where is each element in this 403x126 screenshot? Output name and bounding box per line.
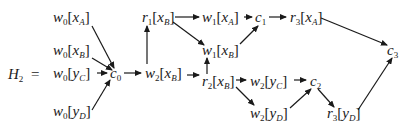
node-w2xB: w2[xB] — [145, 65, 182, 83]
edge-r3yD-to-c3 — [358, 58, 392, 110]
node-c3: c3 — [387, 42, 399, 60]
node-w0xB: w0[xB] — [53, 42, 90, 60]
node-c0: c0 — [110, 65, 122, 83]
node-r3yD: r3[yD] — [327, 105, 361, 123]
edge-r1xB-to-w1xB — [173, 22, 204, 45]
edge-w0xA-to-c0 — [92, 26, 114, 68]
node-w1xA: w1[xA] — [202, 9, 239, 27]
node-r3xA: r3[xA] — [290, 9, 323, 27]
node-r1xB: r1[xB] — [142, 9, 175, 27]
node-w2yD: w2[yD] — [250, 105, 288, 123]
edge-layer — [92, 17, 392, 110]
computation-graph-diagram: H2 = w0[xA]w0[xB]w0[yC]w0[yD]c0w2[xB]r1[… — [0, 0, 403, 126]
node-w0yD: w0[yD] — [53, 103, 91, 121]
edge-w2yD-to-c2 — [290, 89, 311, 108]
edge-r2xB-to-w2yD — [236, 87, 254, 105]
node-c1: c1 — [255, 9, 266, 27]
equals-sign: = — [31, 66, 39, 82]
edge-w0xB-to-c0 — [92, 58, 112, 70]
node-c2: c2 — [310, 73, 321, 91]
node-w2yC: w2[yC] — [250, 73, 287, 91]
edge-w1xB-to-c1 — [240, 26, 258, 44]
equation-lhs: H2 — [7, 66, 23, 84]
equation-label: H2 = — [7, 66, 39, 84]
edge-w0yD-to-c0 — [92, 80, 110, 110]
node-r2xB: r2[xB] — [202, 73, 235, 91]
node-w0yC: w0[yC] — [53, 65, 90, 83]
edge-r3xA-to-c3 — [321, 18, 387, 45]
node-w1xB: w1[xB] — [202, 42, 239, 60]
node-w0xA: w0[xA] — [53, 9, 90, 27]
